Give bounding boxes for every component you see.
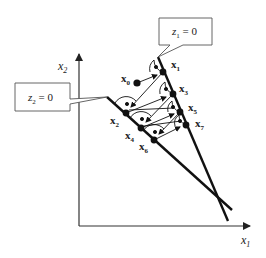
- point-x6: [151, 137, 158, 144]
- label-x3: x3: [179, 82, 189, 97]
- arrow-x1-x2: [131, 72, 163, 107]
- point-x5: [177, 109, 184, 116]
- label-x6: x6: [139, 140, 149, 155]
- y-axis-label: x2: [57, 59, 67, 75]
- point-x1: [160, 69, 167, 76]
- point-x3: [170, 91, 177, 98]
- label-x5: x5: [188, 101, 198, 116]
- axes: x2 x1: [57, 54, 250, 249]
- x-axis-label: x1: [240, 233, 250, 249]
- angle-marker-x2: [115, 97, 136, 106]
- label-x0: x0: [121, 72, 131, 87]
- label-x1: x1: [171, 58, 181, 73]
- point-x0: [133, 79, 140, 86]
- iteration-diagram: x2 x1 z1 = 0 z2 = 0: [0, 0, 266, 258]
- label-x7: x7: [195, 117, 205, 132]
- arrow-x2-x3: [126, 97, 166, 113]
- label-x4: x4: [125, 129, 135, 144]
- point-x7: [183, 122, 190, 129]
- point-x2: [123, 110, 130, 117]
- arrow-x6-x7: [154, 127, 180, 140]
- label-x2: x2: [110, 114, 120, 129]
- callout-z1: z1 = 0: [158, 18, 212, 57]
- point-x4: [138, 125, 145, 132]
- callout-z2: z2 = 0: [15, 83, 107, 111]
